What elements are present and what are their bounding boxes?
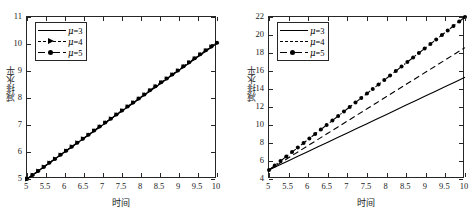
x-tick-label: 5: [266, 181, 270, 191]
series-path-μ3: [269, 77, 465, 170]
x-tick-label: 5.5: [40, 181, 51, 191]
legend-item-mu3-left: μ=3: [38, 25, 83, 36]
x-tick-label: 7: [344, 181, 348, 191]
x-tick-mark-top: [347, 17, 348, 21]
y-tick-mark-right: [211, 152, 215, 153]
x-tick-mark: [179, 173, 180, 177]
y-tick-label: 18: [246, 47, 264, 57]
legend-left: μ=3 μ=4 μ=5: [35, 22, 87, 61]
x-tick-mark-top: [406, 17, 407, 21]
series-marker-circle: [70, 145, 74, 149]
x-tick-mark: [347, 173, 348, 177]
y-tick-mark: [269, 35, 273, 36]
series-marker-circle: [59, 153, 63, 157]
series-path-μ4: [269, 48, 465, 170]
series-marker-circle: [36, 169, 40, 173]
x-tick-mark-top: [465, 17, 466, 21]
y-tick-mark: [27, 98, 31, 99]
legend-label-mu4-left: μ=4: [68, 37, 83, 47]
legend-item-mu4-left: μ=4: [38, 36, 83, 47]
y-tick-label: 20: [246, 29, 264, 39]
x-tick-label: 8: [383, 181, 387, 191]
y-tick-mark: [269, 53, 273, 54]
series-marker-circle: [187, 60, 191, 64]
y-tick-mark: [27, 71, 31, 72]
series-marker-circle: [451, 24, 455, 28]
series-marker-circle: [86, 133, 90, 137]
y-axis-title-left: 减排水平: [3, 66, 16, 102]
legend-item-mu5-left: μ=5: [38, 47, 83, 58]
y-tick-mark: [269, 71, 273, 72]
y-tick-mark: [27, 179, 31, 180]
x-tick-mark: [289, 173, 290, 177]
series-marker-circle: [440, 33, 444, 37]
y-tick-mark: [269, 17, 273, 18]
y-tick-mark: [27, 44, 31, 45]
series-marker-circle: [348, 105, 352, 109]
series-marker-circle: [319, 128, 323, 132]
chart-panel-left: μ=3 μ=4 μ=5 55.566.577: [0, 0, 236, 215]
figure-two-panel-line-charts: μ=3 μ=4 μ=5 55.566.577: [0, 0, 473, 215]
y-tick-label: 10: [246, 119, 264, 129]
y-axis-title-right: 减排水平: [244, 66, 257, 102]
x-tick-mark: [46, 173, 47, 177]
series-marker-circle: [126, 104, 130, 108]
x-tick-mark-top: [328, 17, 329, 21]
x-tick-mark-top: [46, 17, 47, 21]
x-tick-label: 6: [305, 181, 309, 191]
x-tick-mark: [141, 173, 142, 177]
series-marker-circle: [434, 38, 438, 42]
x-tick-mark: [308, 173, 309, 177]
x-tick-mark: [269, 173, 270, 177]
y-tick-mark-right: [211, 125, 215, 126]
y-tick-label: 5: [4, 173, 22, 183]
series-marker-circle: [92, 129, 96, 133]
x-tick-mark-top: [445, 17, 446, 21]
series-marker-circle: [446, 29, 450, 33]
series-marker-circle: [75, 141, 79, 145]
x-tick-mark-top: [103, 17, 104, 21]
series-marker-circle: [114, 113, 118, 117]
y-tick-mark-right: [211, 71, 215, 72]
series-marker-circle: [371, 87, 375, 91]
legend-label-mu5-left: μ=5: [68, 48, 83, 58]
series-marker-circle: [330, 119, 334, 123]
x-tick-mark-top: [179, 17, 180, 21]
x-tick-mark: [406, 173, 407, 177]
legend-label-mu3-right: μ=3: [310, 26, 325, 36]
series-marker-circle: [154, 84, 158, 88]
x-tick-mark: [198, 173, 199, 177]
y-tick-mark: [269, 125, 273, 126]
x-tick-mark: [84, 173, 85, 177]
x-tick-mark-top: [289, 17, 290, 21]
x-tick-label: 7: [100, 181, 104, 191]
series-marker-circle: [284, 155, 288, 159]
x-tick-mark-top: [84, 17, 85, 21]
x-tick-label: 5: [24, 181, 28, 191]
series-marker-circle: [342, 110, 346, 114]
x-tick-mark: [27, 173, 28, 177]
x-tick-mark-top: [308, 17, 309, 21]
series-marker-circle: [325, 123, 329, 127]
y-tick-mark-right: [459, 35, 463, 36]
series-marker-circle: [120, 108, 124, 112]
x-tick-label: 9: [176, 181, 180, 191]
y-tick-label: 12: [246, 101, 264, 111]
x-tick-label: 6: [62, 181, 66, 191]
series-marker-circle: [313, 132, 317, 136]
y-tick-mark-right: [211, 179, 215, 180]
series-marker-circle: [193, 56, 197, 60]
series-marker-circle: [359, 96, 363, 100]
series-marker-circle: [181, 64, 185, 68]
y-tick-mark-right: [459, 143, 463, 144]
series-marker-circle: [405, 60, 409, 64]
series-marker-circle: [388, 74, 392, 78]
y-tick-mark-right: [211, 17, 215, 18]
x-tick-mark: [217, 173, 218, 177]
y-tick-mark-right: [459, 17, 463, 18]
y-tick-mark-right: [459, 53, 463, 54]
x-tick-mark: [65, 173, 66, 177]
series-marker-circle: [131, 100, 135, 104]
x-tick-mark-top: [65, 17, 66, 21]
x-tick-label: 8: [138, 181, 142, 191]
